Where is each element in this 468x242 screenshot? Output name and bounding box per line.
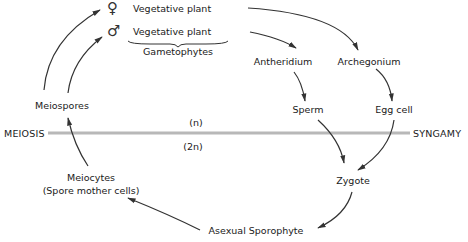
male-vegetative-plant-label: Vegetative plant — [133, 27, 211, 37]
female-vegetative-plant-label: Vegetative plant — [133, 4, 211, 14]
arrow-meiospores-to-male — [68, 37, 102, 93]
female-symbol-icon: ♀ — [107, 1, 118, 16]
arrow-archegonium-to-egg — [376, 69, 392, 101]
diagram-arrows — [0, 0, 468, 242]
arrow-zygote-to-sporophyte — [318, 192, 352, 228]
egg-cell-label: Egg cell — [375, 105, 412, 115]
meiocytes-sub-label: (Spore mother cells) — [43, 186, 140, 196]
antheridium-label: Antheridium — [254, 57, 313, 67]
meiosis-label: MEIOSIS — [4, 129, 45, 139]
arrow-male-to-antheridium — [250, 32, 296, 48]
arrow-sperm-to-zygote — [318, 120, 344, 163]
gametophytes-label: Gametophytes — [143, 47, 213, 57]
syngamy-label: SYNGAMY — [413, 129, 461, 139]
meiospores-label: Meiospores — [35, 101, 89, 111]
asexual-sporophyte-label: Asexual Sporophyte — [209, 226, 304, 236]
archegonium-label: Archegonium — [337, 57, 400, 67]
arrow-egg-to-zygote — [358, 120, 394, 170]
haploid-label: (n) — [189, 118, 202, 128]
arrow-antheridium-to-sperm — [294, 72, 305, 101]
arrow-female-to-archegonium — [248, 8, 358, 50]
meiocytes-label: Meiocytes — [67, 173, 115, 183]
arrow-meiocytes-to-meiospores — [68, 118, 88, 166]
sperm-label: Sperm — [293, 105, 324, 115]
diploid-label: (2n) — [183, 142, 202, 152]
male-symbol-icon: ♂ — [107, 24, 120, 39]
arrow-sporophyte-to-meiocytes — [128, 198, 200, 230]
arrow-meiospores-to-female — [44, 10, 100, 90]
zygote-label: Zygote — [336, 176, 370, 186]
